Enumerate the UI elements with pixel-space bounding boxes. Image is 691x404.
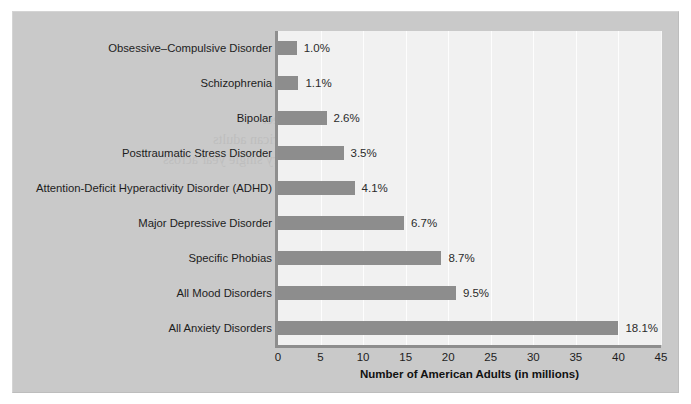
bar-value-label: 3.5% bbox=[351, 146, 377, 160]
bar-value-label: 8.7% bbox=[448, 251, 474, 265]
x-tick-label: 10 bbox=[357, 351, 370, 363]
category-axis-labels: Obsessive–Compulsive DisorderSchizophren… bbox=[31, 31, 272, 345]
bar-value-label: 18.1% bbox=[625, 321, 658, 335]
x-axis-title: Number of American Adults (in millions) bbox=[278, 368, 661, 380]
category-label: Attention-Deficit Hyperactivity Disorder… bbox=[36, 181, 272, 195]
gridline-45 bbox=[661, 31, 662, 345]
bar bbox=[278, 41, 297, 55]
x-tick-label: 20 bbox=[442, 351, 455, 363]
x-tick-label: 45 bbox=[655, 351, 668, 363]
x-tick-label: 15 bbox=[399, 351, 412, 363]
page-canvas: the prevalence of mental disorders among… bbox=[0, 0, 691, 404]
x-tick-label: 0 bbox=[275, 351, 281, 363]
bar bbox=[278, 111, 327, 125]
x-tick-label: 5 bbox=[317, 351, 323, 363]
x-tick-label: 30 bbox=[527, 351, 540, 363]
category-label: Specific Phobias bbox=[188, 251, 272, 265]
category-label: Posttraumatic Stress Disorder bbox=[122, 146, 272, 160]
x-tick-label: 40 bbox=[612, 351, 625, 363]
x-tick-label: 25 bbox=[484, 351, 497, 363]
category-label: All Anxiety Disorders bbox=[168, 321, 272, 335]
bar bbox=[278, 181, 355, 195]
bar bbox=[278, 76, 298, 90]
bar-series: 1.0%1.1%2.6%3.5%4.1%6.7%8.7%9.5%18.1% bbox=[278, 31, 661, 345]
bar-value-label: 6.7% bbox=[411, 216, 437, 230]
bar-value-label: 1.1% bbox=[305, 76, 331, 90]
bar bbox=[278, 286, 456, 300]
category-label: All Mood Disorders bbox=[177, 286, 272, 300]
plot-area: 1.0%1.1%2.6%3.5%4.1%6.7%8.7%9.5%18.1% bbox=[278, 31, 661, 345]
bar-value-label: 4.1% bbox=[362, 181, 388, 195]
bar-value-label: 1.0% bbox=[304, 41, 330, 55]
bar-value-label: 9.5% bbox=[463, 286, 489, 300]
category-label: Obsessive–Compulsive Disorder bbox=[108, 41, 272, 55]
category-label: Major Depressive Disorder bbox=[138, 216, 272, 230]
x-axis-tick-labels: 051015202530354045 bbox=[278, 351, 661, 367]
x-tick-label: 35 bbox=[569, 351, 582, 363]
bar bbox=[278, 146, 344, 160]
bar bbox=[278, 251, 441, 265]
bar bbox=[278, 321, 618, 335]
figure-panel: the prevalence of mental disorders among… bbox=[12, 11, 679, 393]
bar bbox=[278, 216, 404, 230]
category-label: Schizophrenia bbox=[200, 76, 272, 90]
category-label: Bipolar bbox=[237, 111, 272, 125]
bar-value-label: 2.6% bbox=[334, 111, 360, 125]
